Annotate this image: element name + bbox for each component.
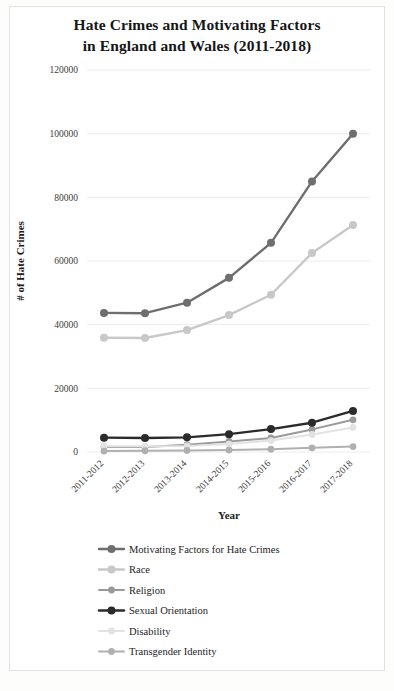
data-point <box>309 431 316 438</box>
data-point <box>268 437 275 444</box>
legend-label: Transgender Identity <box>129 646 217 657</box>
y-axis-tick-labels: 020000400006000080000100000120000 <box>50 65 79 457</box>
data-point <box>226 447 233 454</box>
data-point <box>141 309 149 317</box>
legend-item[interactable]: Race <box>99 564 150 575</box>
x-tick-label: 2012-2013 <box>110 458 146 494</box>
data-point <box>350 424 357 431</box>
legend-label: Religion <box>129 585 166 596</box>
series-sexual-orientation <box>100 407 357 442</box>
chart-legend: Motivating Factors for Hate CrimesRaceRe… <box>99 544 279 658</box>
x-axis-tick-labels: 2011-20122012-20132013-20142014-20152015… <box>69 458 354 494</box>
data-point <box>142 447 149 454</box>
legend-label: Race <box>129 564 150 575</box>
y-tick-label: 80000 <box>54 193 78 203</box>
x-tick-label: 2014-2015 <box>194 458 230 494</box>
legend-marker-icon <box>108 628 115 635</box>
data-point <box>141 334 149 342</box>
data-point <box>225 274 233 282</box>
data-point <box>100 309 108 317</box>
x-tick-label: 2013-2014 <box>152 458 188 494</box>
legend-marker-icon <box>108 545 116 553</box>
x-tick-label: 2015-2016 <box>236 458 272 494</box>
data-series-group <box>100 130 357 455</box>
x-tick-label: 2017-2018 <box>318 458 354 494</box>
legend-marker-icon <box>108 587 115 594</box>
y-tick-label: 40000 <box>54 320 78 330</box>
data-point <box>183 433 191 441</box>
legend-marker-icon <box>108 607 116 615</box>
data-point <box>349 407 357 415</box>
legend-label: Motivating Factors for Hate Crimes <box>129 544 279 555</box>
chart-figure: Hate Crimes and Motivating Factors in En… <box>0 0 394 691</box>
legend-marker-icon <box>108 648 115 655</box>
data-point <box>183 326 191 334</box>
y-axis-title: # of Hate Crimes <box>14 220 26 300</box>
data-point <box>308 177 316 185</box>
x-axis-title: Year <box>218 509 240 521</box>
legend-item[interactable]: Religion <box>99 585 166 596</box>
data-point <box>184 447 191 454</box>
data-point <box>267 291 275 299</box>
data-point <box>308 419 316 427</box>
legend-item[interactable]: Transgender Identity <box>99 646 217 657</box>
series-motivating-factors-for-hate-crimes <box>100 130 357 318</box>
legend-item[interactable]: Disability <box>99 626 171 637</box>
data-point <box>267 425 275 433</box>
gridlines-group <box>87 70 370 452</box>
x-tick-label: 2011-2012 <box>69 458 105 494</box>
y-tick-label: 60000 <box>54 256 78 266</box>
y-tick-label: 20000 <box>54 384 78 394</box>
y-tick-label: 100000 <box>50 129 79 139</box>
data-point <box>226 441 233 448</box>
data-point <box>350 416 357 423</box>
data-point <box>101 448 108 455</box>
x-tick-label: 2016-2017 <box>277 458 313 494</box>
data-point <box>349 130 357 138</box>
legend-item[interactable]: Motivating Factors for Hate Crimes <box>99 544 279 555</box>
data-point <box>308 249 316 257</box>
series-line <box>104 134 353 314</box>
data-point <box>268 446 275 453</box>
data-point <box>100 434 108 442</box>
legend-marker-icon <box>108 566 116 574</box>
data-point <box>309 444 316 451</box>
legend-label: Sexual Orientation <box>129 605 209 616</box>
data-point <box>141 434 149 442</box>
y-tick-label: 120000 <box>50 65 79 75</box>
data-point <box>183 299 191 307</box>
data-point <box>267 239 275 247</box>
data-point <box>350 443 357 450</box>
legend-item[interactable]: Sexual Orientation <box>99 605 209 616</box>
legend-label: Disability <box>129 626 171 637</box>
data-point <box>225 311 233 319</box>
data-point <box>225 430 233 438</box>
y-tick-label: 0 <box>73 447 78 457</box>
data-point <box>349 221 357 229</box>
data-point <box>100 334 108 342</box>
line-chart-plot: 020000400006000080000100000120000 2011-2… <box>0 0 394 691</box>
